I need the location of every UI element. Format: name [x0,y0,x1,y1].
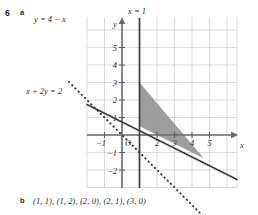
y-tick-label-3: 3 [112,78,117,88]
x-tick-label-4: 4 [190,138,195,148]
x-tick-label--1: −1 [96,138,106,148]
part-b-answer: (1, 1), (1, 2), (2, 0), (2, 1), (3, 0) [33,196,146,206]
y-tick-label--2: −2 [107,166,118,176]
graph-plot: −1 2 3 4 5 5 4 3 2 1 −1 −2 O x y [0,0,258,215]
y-tick-label--1: −1 [107,148,117,158]
y-tick-label-5: 5 [113,43,117,53]
grid-lines [87,17,237,188]
origin-label: O [125,138,131,148]
x-tick-label-3: 3 [171,138,176,148]
y-axis-arrow [119,18,126,25]
y-axis-label: y [112,19,117,29]
x-tick-label-2: 2 [155,138,160,148]
part-b-label: b [20,196,25,205]
y-tick-label-1: 1 [113,113,117,123]
x-axis-label: x [239,140,244,150]
x-tick-label-5: 5 [207,138,211,148]
